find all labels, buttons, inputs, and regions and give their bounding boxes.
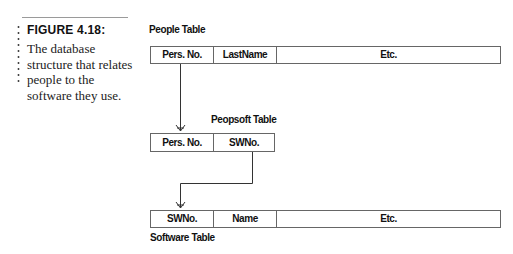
relationship-connectors — [0, 0, 513, 254]
peopsoft-to-software-arrow — [176, 152, 253, 208]
people-to-peopsoft-arrow — [176, 64, 185, 131]
